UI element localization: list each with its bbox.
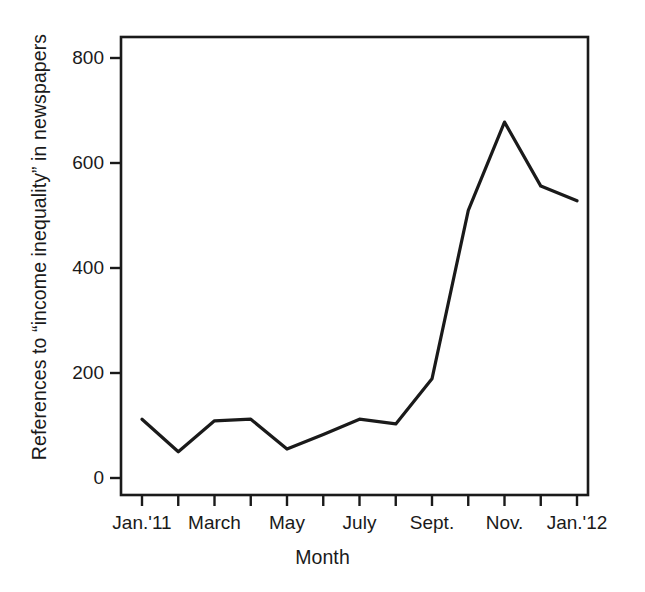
y-tick-label: 0 [93,467,104,489]
y-tick-label: 200 [72,362,104,384]
x-tick-label: July [343,512,377,534]
x-tick-label: Jan.'11 [112,512,171,534]
data-series-line [142,122,577,452]
y-tick-label: 800 [72,47,104,69]
x-tick-label: Sept. [410,512,454,534]
line-chart: 0200400600800 Jan.'11MarchMayJulySept.No… [0,0,645,592]
x-tick-label: Jan.'12 [547,512,608,534]
x-tick-label: March [188,512,241,534]
y-axis-ticks [110,58,121,478]
chart-plot-area [0,0,645,592]
x-axis-title-wrapper: Month [0,546,645,569]
x-tick-label: Nov. [486,512,524,534]
x-axis-title: Month [295,546,350,568]
y-tick-label: 600 [72,152,104,174]
plot-frame [121,37,588,495]
x-tick-label: May [269,512,305,534]
y-tick-label: 400 [72,257,104,279]
x-axis-ticks [142,495,577,506]
